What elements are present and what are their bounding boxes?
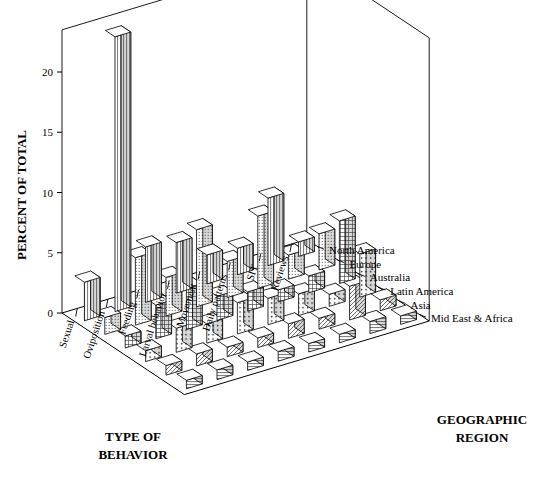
region-label-australia: Australia (370, 271, 410, 283)
y-axis-title: PERCENT OF TOTAL (14, 130, 29, 260)
region-label-asia: Asia (411, 299, 431, 311)
y-tick-label: 0 (48, 307, 54, 319)
y-tick-label: 10 (42, 187, 54, 199)
x-axis-title-line1: TYPE OF (105, 429, 161, 444)
y-axis-ticks: 05101520 (42, 66, 62, 319)
category-label-sexual: Sexual (57, 319, 76, 350)
region-label-north-america: North America (329, 244, 395, 256)
z-axis-title-line2: REGION (456, 430, 509, 445)
region-label-europe: Europe (349, 258, 381, 270)
bar-north-america-oviposition (105, 26, 130, 312)
z-axis-title-line1: GEOGRAPHIC (437, 412, 527, 427)
region-label-latin-america: Latin America (390, 285, 453, 297)
y-tick-label: 20 (42, 66, 54, 78)
x-axis-title-line2: BEHAVIOR (98, 447, 168, 462)
three-d-bar-chart: 05101520 SexualOvipositionFeedingLarval … (0, 0, 558, 487)
y-tick-label: 15 (42, 126, 54, 138)
y-tick-label: 5 (48, 247, 54, 259)
region-label-mid-east-africa: Mid East & Africa (431, 312, 513, 324)
chart-figure: 05101520 SexualOvipositionFeedingLarval … (0, 0, 558, 487)
